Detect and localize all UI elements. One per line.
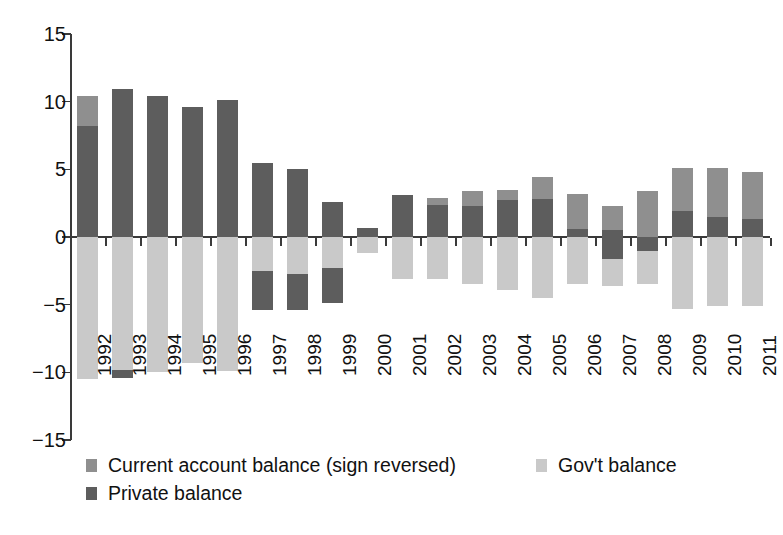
bar-group-1994[interactable] bbox=[147, 34, 168, 440]
legend-label: Current account balance (sign reversed) bbox=[108, 452, 456, 479]
bar-group-1999[interactable] bbox=[322, 34, 343, 440]
bar-segment-govt bbox=[567, 237, 588, 284]
bar-segment-private bbox=[462, 206, 483, 237]
bar-segment-private bbox=[252, 163, 273, 237]
bar-segment-private bbox=[532, 199, 553, 237]
bar-segment-govt bbox=[462, 237, 483, 284]
plot-area: 1992199319941995199619971998199920002001… bbox=[70, 34, 770, 440]
y-axis-label: −15 bbox=[32, 430, 66, 450]
bar-group-2003[interactable] bbox=[462, 34, 483, 440]
bar-segment-private bbox=[707, 217, 728, 237]
bar-segment-govt bbox=[252, 237, 273, 271]
bar-segment-current-account bbox=[637, 191, 658, 237]
bar-group-2004[interactable] bbox=[497, 34, 518, 440]
bar-segment-private bbox=[147, 96, 168, 237]
x-axis-year-label: 2011 bbox=[760, 336, 779, 377]
bar-segment-private bbox=[357, 228, 378, 237]
y-axis-label: −10 bbox=[32, 362, 66, 382]
bar-segment-private bbox=[427, 205, 448, 237]
bar-segment-govt bbox=[672, 237, 693, 309]
bar-group-2010[interactable] bbox=[707, 34, 728, 440]
legend-label: Gov't balance bbox=[558, 452, 677, 479]
bar-group-2007[interactable] bbox=[602, 34, 623, 440]
bar-segment-govt bbox=[392, 237, 413, 279]
bar-segment-govt bbox=[287, 237, 308, 274]
bar-group-2008[interactable] bbox=[637, 34, 658, 440]
bar-segment-current-account bbox=[567, 194, 588, 229]
bar-segment-private bbox=[392, 195, 413, 237]
bar-group-2002[interactable] bbox=[427, 34, 448, 440]
bar-segment-private bbox=[637, 237, 658, 251]
bar-group-1995[interactable] bbox=[182, 34, 203, 440]
bar-group-1998[interactable] bbox=[287, 34, 308, 440]
legend-item[interactable]: Private balance bbox=[86, 480, 242, 507]
y-axis-label: −5 bbox=[43, 295, 66, 315]
legend-swatch-icon bbox=[86, 459, 97, 472]
legend-item[interactable]: Current account balance (sign reversed) bbox=[86, 452, 456, 479]
bar-group-1993[interactable] bbox=[112, 34, 133, 440]
bar-segment-private bbox=[217, 100, 238, 237]
bar-segment-private bbox=[182, 107, 203, 237]
bar-group-1992[interactable] bbox=[77, 34, 98, 440]
bar-group-2009[interactable] bbox=[672, 34, 693, 440]
bar-group-1996[interactable] bbox=[217, 34, 238, 440]
bar-segment-govt bbox=[602, 259, 623, 286]
bar-group-2001[interactable] bbox=[392, 34, 413, 440]
bar-segment-current-account bbox=[427, 198, 448, 205]
bar-segment-current-account bbox=[742, 172, 763, 219]
y-axis-label: 10 bbox=[44, 92, 66, 112]
bar-segment-private bbox=[602, 230, 623, 258]
legend-swatch-icon bbox=[536, 459, 547, 472]
bar-segment-govt bbox=[532, 237, 553, 298]
bar-segment-private bbox=[322, 202, 343, 237]
bar-segment-govt bbox=[497, 237, 518, 290]
legend-row: Private balance bbox=[86, 480, 776, 508]
bar-segment-private bbox=[742, 219, 763, 237]
bar-segment-private-lower bbox=[287, 274, 308, 311]
bar-group-2006[interactable] bbox=[567, 34, 588, 440]
bar-segment-private-lower bbox=[322, 268, 343, 303]
bar-group-2005[interactable] bbox=[532, 34, 553, 440]
bar-segment-current-account bbox=[462, 191, 483, 206]
chart-legend: Current account balance (sign reversed)G… bbox=[86, 452, 776, 508]
bar-segment-govt bbox=[707, 237, 728, 306]
bar-segment-govt bbox=[322, 237, 343, 268]
bar-segment-current-account bbox=[77, 96, 98, 126]
bar-segment-current-account bbox=[602, 206, 623, 230]
bar-group-2011[interactable] bbox=[742, 34, 763, 440]
x-axis-tick bbox=[770, 238, 772, 246]
bar-group-1997[interactable] bbox=[252, 34, 273, 440]
bar-group-2000[interactable] bbox=[357, 34, 378, 440]
bar-segment-govt bbox=[637, 251, 658, 285]
bar-segment-private-lower bbox=[252, 271, 273, 310]
legend-row: Current account balance (sign reversed)G… bbox=[86, 452, 776, 480]
bar-segment-current-account bbox=[532, 177, 553, 199]
bar-segment-current-account bbox=[707, 168, 728, 217]
bar-segment-govt bbox=[357, 237, 378, 253]
y-axis-label: 15 bbox=[44, 24, 66, 44]
bar-segment-private bbox=[567, 229, 588, 237]
bar-segment-private bbox=[287, 169, 308, 237]
legend-label: Private balance bbox=[108, 480, 242, 507]
legend-swatch-icon bbox=[86, 487, 97, 500]
bar-segment-current-account bbox=[497, 190, 518, 201]
y-axis-label: 5 bbox=[55, 159, 66, 179]
y-axis-label: 0 bbox=[55, 227, 66, 247]
legend-item[interactable]: Gov't balance bbox=[536, 452, 677, 479]
bar-segment-private bbox=[497, 200, 518, 237]
bar-segment-current-account bbox=[672, 168, 693, 211]
bar-segment-private bbox=[672, 211, 693, 237]
bar-segment-private bbox=[112, 89, 133, 237]
bar-segment-private bbox=[77, 126, 98, 237]
stacked-bar-chart: 151050−5−10−15 1992199319941995199619971… bbox=[0, 0, 783, 535]
bar-segment-govt bbox=[742, 237, 763, 306]
bar-segment-govt bbox=[427, 237, 448, 279]
